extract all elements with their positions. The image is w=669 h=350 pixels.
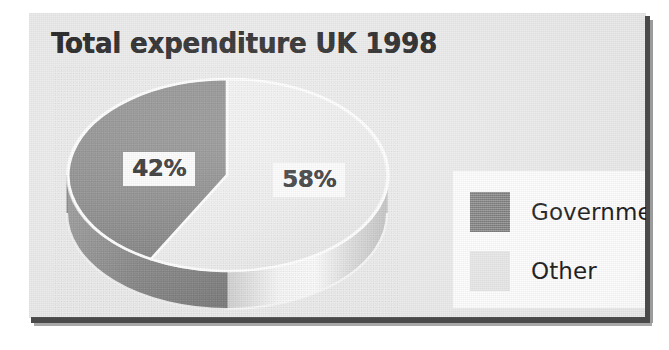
- frame-shadow-right: [650, 20, 653, 323]
- legend-swatch-other: [470, 251, 510, 291]
- pie-chart: [55, 67, 400, 315]
- pie-chart-svg: [55, 67, 400, 315]
- figure-root: Total expenditure UK 1998: [0, 0, 669, 350]
- legend-label-government: Government: [531, 199, 646, 225]
- legend-swatch-government: [470, 192, 510, 232]
- legend-label-other: Other: [531, 258, 597, 284]
- page-title: Total expenditure UK 1998: [51, 26, 437, 60]
- frame-shadow-bottom: [34, 323, 652, 326]
- chart-legend: Government Other: [453, 171, 645, 308]
- pie-data-label-other: 58%: [273, 163, 345, 197]
- chart-panel: Total expenditure UK 1998: [29, 13, 646, 318]
- legend-item-other: Other: [470, 251, 597, 291]
- legend-item-government: Government: [470, 192, 646, 232]
- pie-data-label-government: 42%: [123, 152, 195, 186]
